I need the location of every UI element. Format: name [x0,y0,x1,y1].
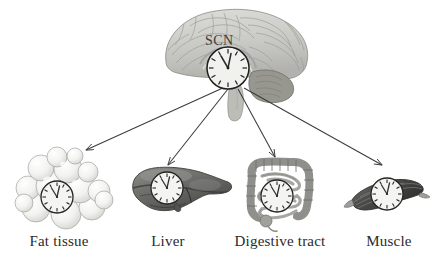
label-digestive-tract: Digestive tract [222,233,338,250]
label-liver: Liver [130,233,206,250]
arrow-to-liver [168,89,228,165]
scn-label: SCN [205,33,234,49]
liver-illustration [133,167,232,211]
clock-face-scn [207,47,249,89]
clock-face-digestive-tract [261,180,293,212]
digestive-tract-illustration [246,159,314,231]
clock-face-fat-tissue [41,181,73,213]
clock-face-muscle [371,178,403,210]
arrow-to-muscle [244,88,382,165]
muscle-illustration [344,178,430,210]
label-muscle: Muscle [350,233,428,250]
label-fat-tissue: Fat tissue [4,233,114,250]
fat-tissue-illustration [15,147,113,229]
clock-face-liver [151,172,183,204]
circadian-clock-diagram: SCN Fat tissue Liver Digestive tract Mus… [0,0,447,264]
